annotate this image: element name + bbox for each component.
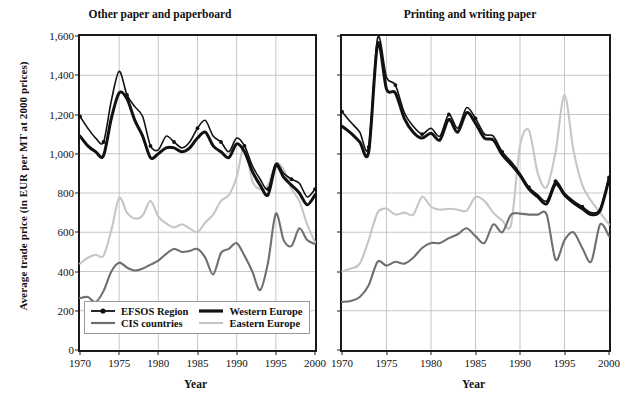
series-line-efsos-region: [80, 71, 315, 197]
y-tick-label: 600: [58, 226, 81, 238]
y-tick-mark: [337, 114, 342, 115]
x-tick-label: 1970: [69, 350, 91, 369]
series-marker-efsos: [172, 140, 176, 144]
x-tick-label: 1975: [376, 350, 398, 369]
series-marker-efsos: [394, 83, 398, 87]
x-tick-label: 1990: [509, 350, 531, 369]
series-marker-efsos: [580, 205, 584, 209]
x-axis-label: Year: [78, 378, 313, 390]
x-tick-label: 1985: [187, 350, 209, 369]
y-tick-mark: [337, 36, 342, 37]
series-marker-efsos: [243, 144, 247, 148]
legend-swatch-eastern: [198, 318, 224, 328]
series-marker-efsos: [266, 187, 270, 191]
x-tick-label: 1975: [108, 350, 130, 369]
y-tick-label: 1,400: [49, 69, 80, 81]
x-tick-label: 1990: [226, 350, 248, 369]
series-marker-efsos: [420, 132, 424, 136]
x-tick-label: 1995: [265, 350, 287, 369]
x-axis-label: Year: [340, 378, 607, 390]
x-tick-label: 1970: [331, 350, 353, 369]
series-marker-efsos: [367, 145, 371, 149]
series-marker-efsos: [149, 144, 153, 148]
x-tick-label: 1995: [554, 350, 576, 369]
series-marker-efsos: [290, 177, 294, 181]
y-tick-mark: [337, 153, 342, 154]
y-tick-mark: [337, 193, 342, 194]
x-tick-label: 1980: [147, 350, 169, 369]
y-tick-label: 800: [58, 187, 81, 199]
series-marker-efsos: [196, 126, 200, 130]
legend-swatch-we: [198, 306, 224, 316]
x-tick-label: 1985: [465, 350, 487, 369]
legend-label: Eastern Europe: [229, 318, 300, 329]
legend-item-eastern[interactable]: Eastern Europe: [198, 318, 302, 329]
y-tick-mark: [337, 310, 342, 311]
series-marker-efsos: [474, 117, 478, 121]
legend-swatch-efsos: [90, 306, 116, 316]
chart-figure: Average trade price (in EUR per MT at 20…: [0, 0, 635, 404]
chart-legend: EFSOS RegionWestern EuropeCIS countriesE…: [84, 301, 310, 334]
series-marker-efsos: [219, 140, 223, 144]
series-marker-efsos: [447, 113, 451, 117]
y-tick-label: 1,000: [49, 148, 80, 160]
series-marker-efsos: [554, 179, 558, 183]
y-tick-mark: [337, 232, 342, 233]
series-line-western-europe: [80, 92, 315, 205]
series-marker-efsos: [102, 140, 106, 144]
series-line-eastern-europe: [80, 145, 315, 264]
y-tick-mark: [337, 271, 342, 272]
series-marker-efsos: [607, 175, 611, 179]
series-layer: [342, 36, 609, 350]
series-line-cis-countries: [80, 213, 315, 302]
x-tick-label: 2000: [598, 350, 620, 369]
y-tick-label: 200: [58, 305, 81, 317]
series-marker-efsos: [500, 150, 504, 154]
y-tick-label: 1,200: [49, 109, 80, 121]
plot-area: 1970197519801985199019952000: [340, 34, 611, 352]
legend-label: CIS countries: [121, 318, 183, 329]
legend-label: EFSOS Region: [121, 306, 188, 317]
legend-swatch-cis: [90, 318, 116, 328]
series-marker-efsos: [340, 110, 344, 114]
series-marker-efsos: [125, 93, 129, 97]
series-marker-efsos: [313, 187, 317, 191]
series-line-western-europe: [342, 43, 609, 215]
legend-item-we[interactable]: Western Europe: [198, 306, 302, 317]
panel-title: Printing and writing paper: [320, 8, 620, 20]
panel-other-paper-and-paperboard: Other paper and paperboard 0200400600800…: [0, 0, 320, 404]
y-tick-label: 400: [58, 266, 81, 278]
panel-printing-and-writing-paper: Printing and writing paper 1970197519801…: [320, 0, 635, 404]
panel-title: Other paper and paperboard: [0, 8, 320, 20]
plot-area: 02004006008001,0001,2001,4001,6001970197…: [78, 34, 317, 352]
y-tick-label: 1,600: [49, 30, 80, 42]
legend-item-cis[interactable]: CIS countries: [90, 318, 188, 329]
legend-item-efsos[interactable]: EFSOS Region: [90, 306, 188, 317]
legend-label: Western Europe: [229, 306, 302, 317]
series-line-cis-countries: [342, 212, 609, 302]
y-tick-mark: [337, 75, 342, 76]
series-marker-efsos: [527, 185, 531, 189]
x-tick-label: 1980: [420, 350, 442, 369]
